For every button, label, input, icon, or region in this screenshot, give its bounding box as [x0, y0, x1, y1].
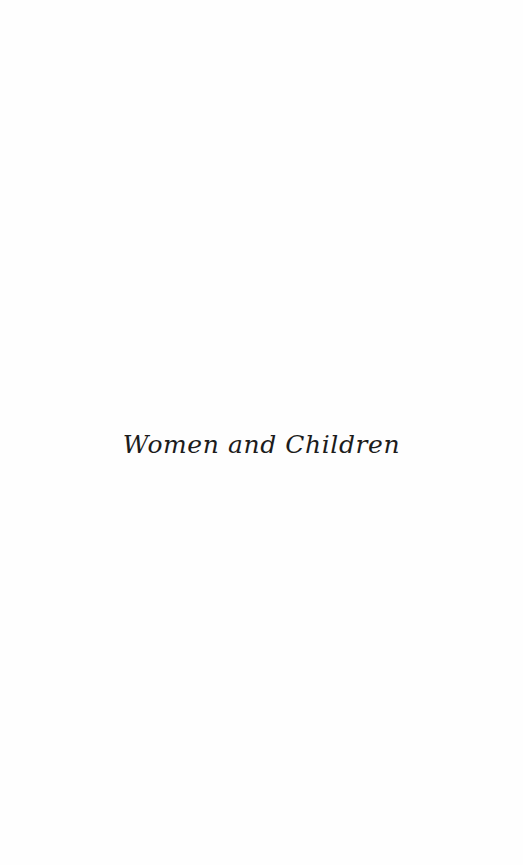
book-page: Women and Children — [0, 0, 523, 865]
half-title: Women and Children — [0, 428, 523, 462]
